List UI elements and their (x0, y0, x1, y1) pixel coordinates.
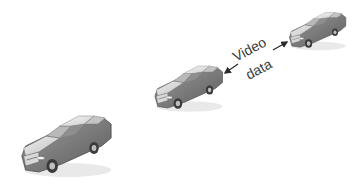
arrow-to-middle-car-icon (225, 64, 238, 73)
car-middle-icon (155, 66, 223, 112)
car-front-icon (22, 116, 111, 177)
arrow-to-back-car-icon (273, 42, 287, 50)
video-data-label: Video data (230, 34, 275, 83)
car-back-icon (289, 12, 345, 50)
label-line-data: data (243, 56, 275, 83)
vehicle-video-data-diagram: Video data (0, 0, 364, 191)
